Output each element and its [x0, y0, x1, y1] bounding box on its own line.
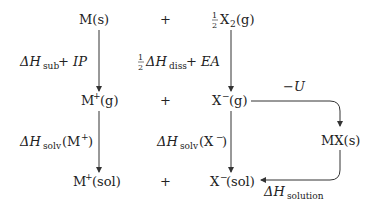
svg-text:ΔH: ΔH [19, 54, 41, 69]
arrow-x-gas-to-mx-solid [251, 101, 340, 126]
species-half-x2-gas: 1 2 X 2 (g) [212, 11, 254, 30]
svg-text:(sol): (sol) [226, 174, 255, 189]
born-haber-cycle-diagram: M(s) + 1 2 X 2 (g) ΔH sub + IP 1 2 ΔH di… [0, 0, 374, 207]
svg-text:solv: solv [43, 141, 62, 151]
svg-text:+ IP: + IP [58, 54, 87, 69]
svg-text:2: 2 [230, 19, 236, 29]
svg-text:ΔH: ΔH [263, 184, 285, 199]
fraction-half: 1 [212, 11, 217, 20]
svg-text:X: X [220, 12, 230, 27]
label-diss-ea: 1 2 ΔH diss + EA [138, 53, 220, 72]
svg-text:): ) [88, 134, 93, 149]
svg-text:ΔH: ΔH [156, 134, 178, 149]
svg-text:ΔH: ΔH [145, 54, 167, 69]
species-m-solid: M(s) [79, 12, 109, 27]
species-mx-solid: MX(s) [321, 133, 360, 148]
svg-text:2: 2 [138, 63, 143, 72]
svg-text:(g): (g) [229, 93, 247, 108]
svg-text:1: 1 [138, 53, 143, 62]
svg-text:(g): (g) [236, 12, 254, 27]
species-x-gas: X − (g) [212, 91, 247, 108]
svg-text:): ) [222, 134, 227, 149]
svg-text:solution: solution [287, 191, 324, 201]
label-sub-ip: ΔH sub + IP [19, 54, 87, 71]
svg-text:diss: diss [169, 61, 187, 71]
svg-text:(g): (g) [100, 93, 118, 108]
species-x-sol: X − (sol) [210, 172, 255, 189]
svg-text:ΔH: ΔH [19, 134, 41, 149]
label-neg-u: −U [283, 79, 306, 94]
species-m-sol: M + (sol) [73, 172, 121, 189]
label-solv-x: ΔH solv (X − ) [156, 132, 227, 151]
svg-text:sub: sub [43, 61, 59, 71]
plus-sign-row1: + [160, 12, 171, 27]
plus-sign-row3: + [160, 174, 171, 189]
arrow-mx-solid-to-x-sol [261, 150, 340, 180]
svg-text:(X: (X [199, 134, 214, 149]
species-m-gas: M + (g) [81, 91, 118, 108]
plus-sign-row2: + [160, 93, 171, 108]
svg-text:(M: (M [62, 134, 80, 149]
svg-text:(sol): (sol) [92, 174, 121, 189]
svg-text:+ EA: + EA [186, 54, 220, 69]
label-solv-m: ΔH solv (M + ) [19, 132, 93, 151]
svg-text:solv: solv [180, 141, 199, 151]
svg-text:X: X [210, 174, 220, 189]
svg-text:X: X [212, 93, 222, 108]
svg-text:2: 2 [212, 21, 217, 30]
label-solution: ΔH solution [263, 184, 324, 201]
